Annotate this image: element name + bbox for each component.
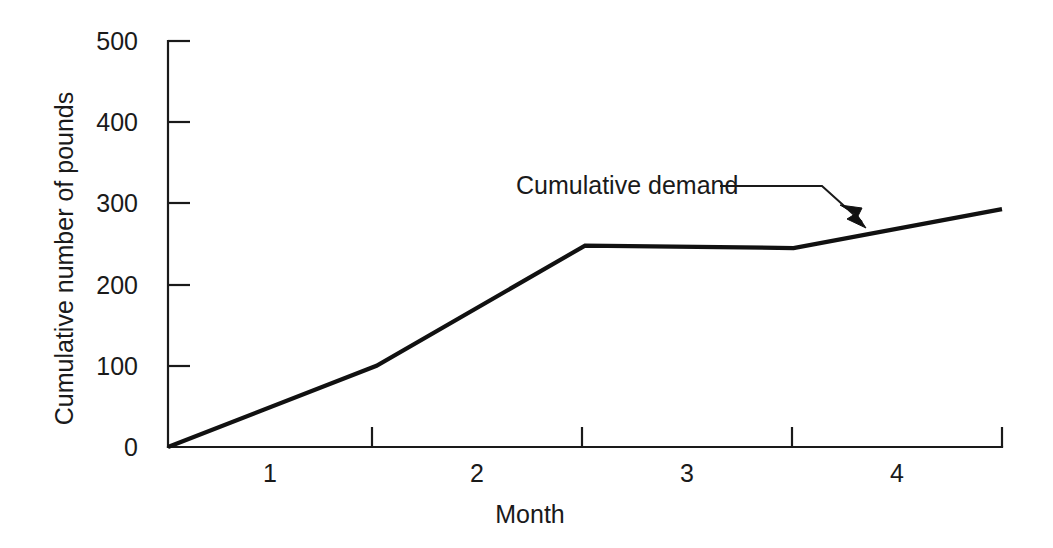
y-axis-title: Cumulative number of pounds — [50, 89, 79, 429]
x-tick-label-month-2: 2 — [417, 461, 537, 486]
annotation-leader-line — [720, 186, 862, 222]
x-tick-label-month-1: 1 — [210, 461, 330, 486]
chart-figure: 500 400 300 200 100 0 1 2 3 4 Cumulative… — [0, 0, 1053, 548]
annotation-arrow-icon — [840, 205, 866, 228]
x-axis-title: Month — [465, 500, 595, 529]
x-tick-label-month-3: 3 — [627, 461, 747, 486]
x-tick-label-month-4: 4 — [837, 461, 957, 486]
cumulative-demand-line — [168, 209, 1002, 447]
y-tick-label-500: 500 — [18, 29, 138, 54]
y-tick-label-0: 0 — [18, 435, 138, 460]
series-annotation-label: Cumulative demand — [516, 171, 738, 200]
